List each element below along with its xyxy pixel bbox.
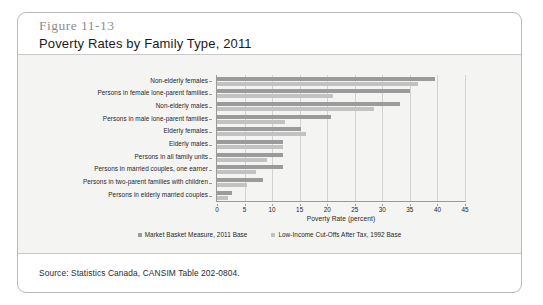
bar (217, 170, 256, 174)
bar (217, 102, 400, 106)
y-tick-mark (209, 196, 212, 197)
plot-region (216, 75, 466, 202)
legend-swatch-icon (271, 233, 275, 237)
x-axis-title: Poverty Rate (percent) (216, 215, 466, 222)
bar (217, 94, 333, 98)
bar-group (216, 165, 466, 178)
y-axis-label: Elderly males (169, 140, 208, 147)
bar-group (216, 89, 466, 102)
bar (217, 77, 435, 81)
x-tick-label: 15 (296, 206, 303, 213)
y-tick-mark (209, 107, 212, 108)
y-tick-mark (209, 183, 212, 184)
legend-swatch-icon (138, 233, 142, 237)
x-tick-label: 45 (461, 206, 468, 213)
y-tick-mark (209, 170, 212, 171)
bar (217, 89, 410, 93)
figure-title: Poverty Rates by Family Type, 2011 (39, 35, 521, 52)
legend-item: Low-Income Cut-Offs After Tax, 1992 Base (271, 231, 401, 238)
bar (217, 178, 263, 182)
bar-group (216, 178, 466, 191)
y-tick-mark (209, 119, 212, 120)
bar (217, 127, 301, 131)
bar-group (216, 102, 466, 115)
x-tick-label: 20 (324, 206, 331, 213)
y-axis-labels: Non-elderly femalesPersons in female lon… (18, 75, 212, 202)
y-axis-label: Persons in two-parent families with chil… (83, 178, 208, 185)
legend-label: Low-Income Cut-Offs After Tax, 1992 Base (278, 231, 401, 238)
x-tick-label: 25 (351, 206, 358, 213)
bar-group (216, 191, 466, 204)
bar (217, 120, 285, 124)
bar (217, 158, 267, 162)
bar-group (216, 115, 466, 128)
y-axis-label: Persons in male lone-parent families (103, 115, 208, 122)
source-bar: Source: Statistics Canada, CANSIM Table … (18, 253, 521, 293)
bar (217, 153, 283, 157)
chart-area: Non-elderly femalesPersons in female lon… (18, 55, 521, 254)
chart-legend: Market Basket Measure, 2011 BaseLow-Inco… (18, 231, 521, 238)
y-tick-mark (209, 132, 212, 133)
y-axis-label: Persons in elderly married couples (108, 191, 208, 198)
x-tick-label: 30 (379, 206, 386, 213)
bar (217, 107, 374, 111)
y-tick-mark (209, 158, 212, 159)
x-tick-label: 10 (269, 206, 276, 213)
bar (217, 82, 418, 86)
y-axis-label: Non-elderly females (150, 77, 208, 84)
y-axis-label: Persons in female lone-parent families (97, 89, 208, 96)
y-axis-label: Non-elderly males (156, 102, 208, 109)
y-tick-mark (209, 94, 212, 95)
bar (217, 165, 283, 169)
y-axis-label: Persons in all family units (135, 153, 208, 160)
bar (217, 145, 283, 149)
legend-item: Market Basket Measure, 2011 Base (138, 231, 248, 238)
figure-header: Figure 11-13 Poverty Rates by Family Typ… (18, 13, 521, 55)
y-axis-label: Elderly females (164, 127, 208, 134)
bar (217, 115, 331, 119)
bar-group (216, 127, 466, 140)
bar-group (216, 153, 466, 166)
x-tick-label: 40 (434, 206, 441, 213)
bar (217, 140, 283, 144)
source-text: Source: Statistics Canada, CANSIM Table … (39, 268, 240, 278)
figure-number: Figure 11-13 (39, 18, 521, 34)
figure-card: Figure 11-13 Poverty Rates by Family Typ… (17, 12, 522, 293)
x-tick-label: 35 (406, 206, 413, 213)
bar-group (216, 140, 466, 153)
bar (217, 183, 247, 187)
y-tick-mark (209, 145, 212, 146)
legend-label: Market Basket Measure, 2011 Base (145, 231, 248, 238)
bar-rows (216, 75, 466, 202)
x-tick-label: 5 (243, 206, 247, 213)
bar (217, 132, 306, 136)
y-axis-label: Persons in married couples, one earner (94, 165, 208, 172)
bar (217, 196, 228, 200)
bar-group (216, 77, 466, 90)
x-tick-label: 0 (215, 206, 219, 213)
y-tick-mark (209, 81, 212, 82)
bar (217, 191, 232, 195)
